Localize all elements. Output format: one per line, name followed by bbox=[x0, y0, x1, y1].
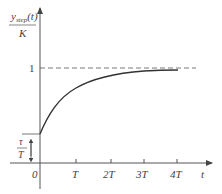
x-ticks bbox=[76, 159, 177, 163]
x-tick-label-3T: 3T bbox=[135, 168, 149, 180]
y-tick-one: 1 bbox=[29, 62, 35, 74]
tau-label-denominator: T bbox=[18, 149, 25, 160]
tau-label-numerator: τ bbox=[19, 136, 23, 147]
x-axis-label: t bbox=[201, 168, 205, 180]
step-response-diagram: ystep(t) K 1 τ T 0 T 2T 3T 4T t bbox=[0, 0, 222, 194]
x-tick-label-4T: 4T bbox=[170, 168, 183, 180]
y-label-denominator: K bbox=[18, 27, 27, 39]
y-label-numerator: ystep(t) bbox=[10, 10, 38, 24]
x-tick-label-2T: 2T bbox=[103, 168, 116, 180]
step-response-curve bbox=[40, 70, 178, 134]
x-tick-label-T: T bbox=[72, 168, 79, 180]
origin-label: 0 bbox=[32, 168, 38, 180]
